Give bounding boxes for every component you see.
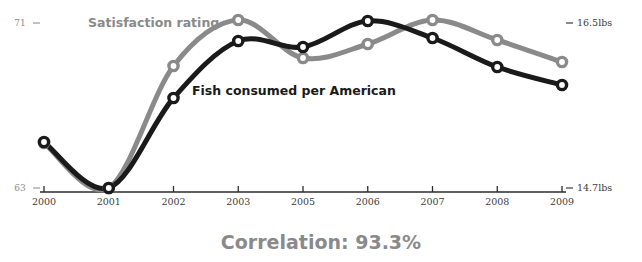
data-point-marker: [363, 16, 372, 25]
right-axis-ticks: [566, 23, 573, 188]
left-axis-max-label: 71: [14, 18, 25, 28]
data-point-marker: [39, 137, 48, 146]
data-point-marker: [234, 15, 243, 24]
data-point-marker: [493, 35, 502, 44]
x-axis-ticks: [44, 186, 562, 192]
data-point-marker: [557, 57, 566, 66]
x-axis-tick-label: 2001: [97, 196, 121, 207]
correlation-chart: 71 63 16.5lbs 14.7lbs 200020012002200320…: [0, 0, 642, 262]
series-annotation-fish-consumed: Fish consumed per American: [192, 83, 396, 98]
data-point-marker: [363, 39, 372, 48]
data-point-marker: [298, 42, 307, 51]
x-axis-tick-label: 2008: [485, 196, 509, 207]
right-axis-max-label: 16.5lbs: [577, 17, 612, 28]
chart-svg: 71 63 16.5lbs 14.7lbs 200020012002200320…: [0, 0, 642, 262]
x-axis-tick-label: 2005: [291, 196, 315, 207]
x-axis-tick-label: 2003: [226, 196, 250, 207]
data-point-marker: [428, 15, 437, 24]
x-axis-tick-label: 2007: [420, 196, 444, 207]
data-point-marker: [234, 36, 243, 45]
x-axis-tick-label: 2000: [32, 196, 56, 207]
data-point-marker: [493, 62, 502, 71]
series-annotation-satisfaction-rating: Satisfaction rating: [88, 15, 219, 30]
x-axis-tick-label: 2006: [356, 196, 380, 207]
data-point-marker: [169, 93, 178, 102]
x-axis-tick-labels: 200020012002200320052006200720082009: [32, 196, 574, 207]
data-point-marker: [557, 80, 566, 89]
left-axis-min-label: 63: [14, 183, 26, 193]
data-point-marker: [169, 61, 178, 70]
data-point-marker: [104, 183, 113, 192]
data-point-marker: [428, 33, 437, 42]
x-axis-tick-label: 2002: [161, 196, 185, 207]
data-point-marker: [298, 53, 307, 62]
left-axis-ticks: [33, 23, 40, 188]
correlation-caption: Correlation: 93.3%: [221, 231, 421, 253]
x-axis-tick-label: 2009: [550, 196, 574, 207]
series-markers-fish-consumed: [39, 16, 566, 192]
right-axis-min-label: 14.7lbs: [577, 182, 612, 193]
